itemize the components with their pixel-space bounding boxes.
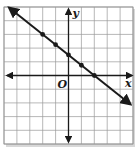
origin-label: O [58,78,68,91]
data-point [40,32,45,37]
data-point [92,73,97,78]
coordinate-plane: y x O [0,0,135,150]
data-point [79,63,84,68]
data-point [53,42,58,47]
data-point [66,53,71,58]
x-axis-label: x [124,77,132,90]
